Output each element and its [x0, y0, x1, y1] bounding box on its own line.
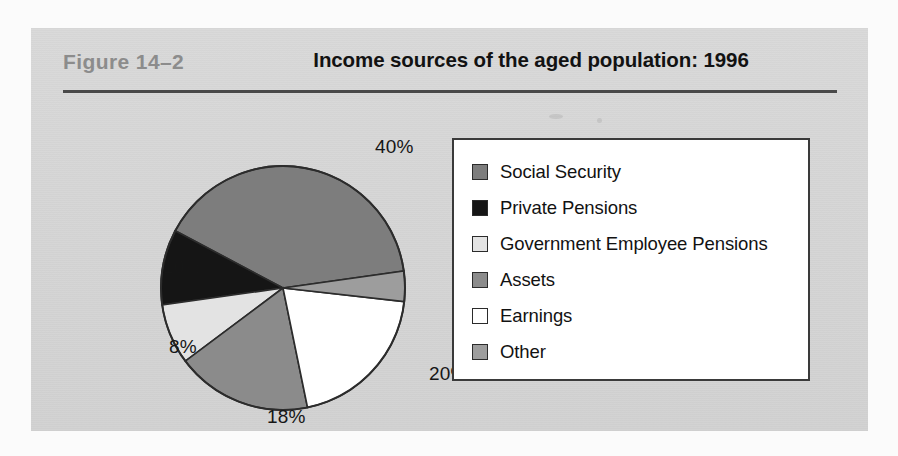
figure-title: Income sources of the aged population: 1… [231, 48, 831, 72]
pie-slices [161, 166, 405, 410]
header-divider [63, 90, 837, 93]
legend-item-label: Earnings [500, 305, 572, 327]
legend-swatch-icon [472, 236, 488, 252]
legend-swatch-icon [472, 164, 488, 180]
legend-list: Social SecurityPrivate PensionsGovernmen… [472, 154, 802, 370]
pie-value-label: 18% [267, 406, 306, 428]
legend-swatch-icon [472, 272, 488, 288]
figure-header: Figure 14–2 Income sources of the aged p… [31, 28, 868, 96]
legend-item-label: Social Security [500, 161, 621, 183]
pie-value-label: 40% [375, 136, 414, 158]
legend-item: Private Pensions [472, 190, 802, 226]
legend-item: Government Employee Pensions [472, 226, 802, 262]
legend-item-label: Other [500, 341, 546, 363]
legend-swatch-icon [472, 344, 488, 360]
figure-panel: Figure 14–2 Income sources of the aged p… [31, 28, 868, 431]
legend-swatch-icon [472, 200, 488, 216]
legend: Social SecurityPrivate PensionsGovernmen… [452, 138, 810, 381]
legend-item: Other [472, 334, 802, 370]
legend-item: Assets [472, 262, 802, 298]
legend-swatch-icon [472, 308, 488, 324]
pie-chart: 40%4%20%18%8%10% [91, 98, 451, 428]
legend-item-label: Assets [500, 269, 555, 291]
scan-artifact [549, 114, 563, 119]
scan-artifact [597, 118, 602, 123]
chart-area: 40%4%20%18%8%10% Social SecurityPrivate … [31, 96, 868, 431]
legend-item-label: Government Employee Pensions [500, 233, 768, 255]
legend-item-label: Private Pensions [500, 197, 637, 219]
pie-value-label: 8% [169, 336, 197, 358]
legend-item: Earnings [472, 298, 802, 334]
pie-value-label: 10% [163, 256, 202, 278]
figure-number-label: Figure 14–2 [63, 50, 184, 74]
legend-item: Social Security [472, 154, 802, 190]
scanned-page: Figure 14–2 Income sources of the aged p… [0, 0, 898, 456]
